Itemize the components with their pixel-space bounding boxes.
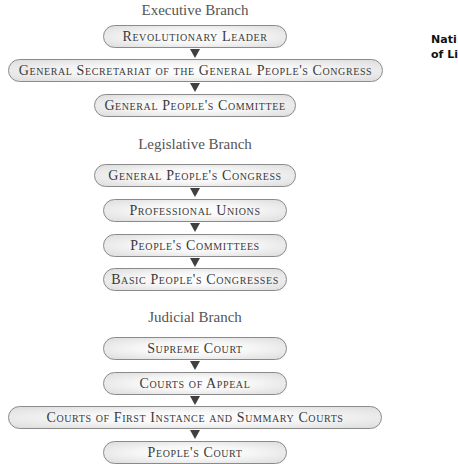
arrow-down-icon (190, 430, 200, 439)
legislative-branch-heading: Legislative Branch (95, 136, 295, 153)
node-general-peoples-congress: General People's Congress (94, 164, 296, 187)
node-courts-of-first-instance: Courts of First Instance and Summary Cou… (8, 406, 382, 429)
arrow-down-icon (190, 223, 200, 232)
arrow-down-icon (190, 188, 200, 197)
executive-branch-heading: Executive Branch (95, 2, 295, 19)
node-peoples-court: People's Court (103, 441, 287, 464)
side-label-line1: Nati (431, 32, 458, 47)
node-professional-unions: Professional Unions (103, 199, 287, 222)
arrow-down-icon (190, 361, 200, 370)
node-revolutionary-leader: Revolutionary Leader (103, 25, 287, 48)
node-courts-of-appeal: Courts of Appeal (103, 372, 287, 395)
arrow-down-icon (190, 83, 200, 92)
node-general-secretariat: General Secretariat of the General Peopl… (8, 59, 383, 82)
node-supreme-court: Supreme Court (103, 337, 287, 360)
node-basic-peoples-congresses: Basic People's Congresses (103, 268, 287, 291)
arrow-down-icon (190, 258, 200, 267)
node-general-peoples-committee: General People's Committee (94, 94, 296, 117)
side-label: Nati of Li (431, 32, 458, 62)
arrow-down-icon (190, 49, 200, 58)
arrow-down-icon (190, 396, 200, 405)
node-peoples-committees: People's Committees (103, 234, 287, 257)
side-label-line2: of Li (431, 47, 458, 62)
judicial-branch-heading: Judicial Branch (95, 309, 295, 326)
